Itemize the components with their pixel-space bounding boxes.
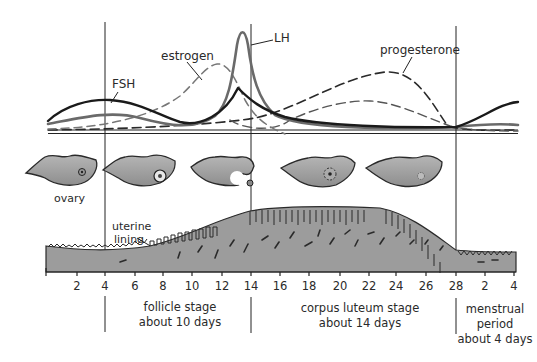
tick-label: 20 [333,279,348,293]
released-egg [247,180,253,186]
menstrual-period-duration: about 4 days [458,332,533,347]
corpus-luteum-stage-title: corpus luteum stage [301,301,419,316]
ovary-1-small-follicle [26,155,97,185]
tick-label: 4 [101,279,108,293]
tick-label: 24 [389,279,404,293]
tick-label: 8 [159,279,166,293]
tick-label: 26 [419,279,434,293]
tick-label: 12 [215,279,230,293]
uterine-lining-label-line1: uterine [112,220,151,233]
ovary-3-ovulation [191,156,254,186]
tick-label: 28 [449,279,464,293]
tick-label: 4 [510,279,517,293]
follicle-stage-label: follicle stage about 10 days [139,300,221,330]
uterine-lining-label-line2: lining [114,233,144,246]
tick-label: 18 [302,279,317,293]
ovary-5-degenerating-corpus-luteum [366,156,442,187]
follicle-stage-duration: about 10 days [139,315,221,330]
ovary-stages [26,155,442,187]
follicle-stage-title: follicle stage [139,300,221,315]
tick-label: 10 [185,279,200,293]
menstrual-period-label: menstrual period about 4 days [458,302,533,347]
tick-label: 2 [73,279,80,293]
corpus-luteum-stage-label: corpus luteum stage about 14 days [301,301,419,331]
estrogen-label: estrogen [161,49,214,63]
ovary-label: ovary [54,192,85,205]
tick-label: 6 [131,279,138,293]
fsh-label: FSH [112,77,135,91]
lh-label: LH [274,31,290,45]
tick-label: 22 [362,279,377,293]
tick-label: 14 [244,279,259,293]
ovary-2-growing-follicle [103,155,175,186]
ovary-4-corpus-luteum [281,156,355,187]
menstrual-period-title-1: menstrual [458,302,533,317]
progesterone-label: progesterone [380,43,460,57]
tick-label: 16 [273,279,288,293]
tick-label: 2 [481,279,488,293]
corpus-luteum-stage-duration: about 14 days [301,316,419,331]
menstrual-period-title-2: period [458,317,533,332]
